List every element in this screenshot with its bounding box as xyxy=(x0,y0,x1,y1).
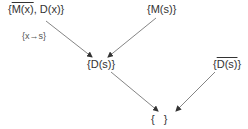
node-a: {M(x), D(x)} xyxy=(8,3,64,15)
node-d-close-brace: } xyxy=(237,58,241,70)
node-d: {D(s)} xyxy=(213,58,241,70)
node-e-close-brace: } xyxy=(164,113,168,125)
node-b-term-1: M(s) xyxy=(151,3,173,15)
node-b: {M(s)} xyxy=(147,3,176,15)
node-c-term-1: D(s) xyxy=(91,58,112,70)
edges-layer xyxy=(0,0,248,129)
node-b-close-brace: } xyxy=(173,3,177,15)
edge-d-to-e xyxy=(176,72,215,111)
node-a-term-2: D(x) xyxy=(40,3,61,15)
node-c: {D(s)} xyxy=(87,58,115,70)
edge-a-to-c-label: {x→s} xyxy=(22,31,46,41)
node-c-close-brace: } xyxy=(111,58,115,70)
node-a-close-brace: } xyxy=(61,3,65,15)
node-e-empty-set: { } xyxy=(151,113,168,125)
node-d-term-1: D(s) xyxy=(217,58,238,70)
node-e-empty xyxy=(155,113,164,125)
edge-a-to-c xyxy=(46,21,92,57)
edge-c-to-e xyxy=(111,72,158,111)
node-a-term-1: M(x) xyxy=(12,3,34,15)
edge-b-to-c xyxy=(108,18,156,57)
